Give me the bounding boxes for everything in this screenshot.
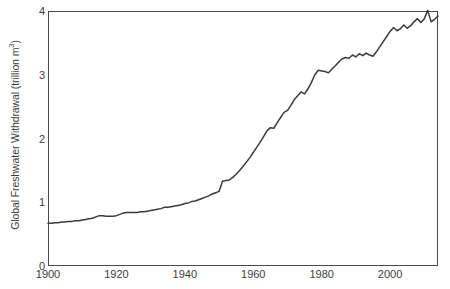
- x-axis-tick-1920: 1920: [104, 268, 128, 280]
- data-line-global-freshwater-withdrawal: [48, 10, 438, 223]
- x-axis-tick-labels: 190019201940196019802000: [0, 268, 450, 288]
- x-axis-tick-1960: 1960: [241, 268, 265, 280]
- y-axis-tick-1: 1: [39, 196, 45, 208]
- y-axis-label: Global Freshwater Withdrawal (trillion m…: [9, 40, 21, 230]
- y-axis-label-text: Global Freshwater Withdrawal (trillion m: [9, 48, 21, 230]
- y-axis-label-suffix: ): [9, 40, 21, 43]
- x-axis-tick-1940: 1940: [173, 268, 197, 280]
- x-axis-tick-1900: 1900: [36, 268, 60, 280]
- y-axis-label-superscript: 3: [8, 44, 17, 48]
- y-axis-tick-2: 2: [39, 133, 45, 145]
- plot-area: [48, 11, 438, 266]
- x-axis-tick-2000: 2000: [378, 268, 402, 280]
- chart-figure: Global Freshwater Withdrawal (trillion m…: [0, 0, 450, 289]
- y-axis-tick-labels: 01234: [28, 0, 45, 289]
- y-axis-tick-4: 4: [39, 5, 45, 17]
- y-axis-tick-3: 3: [39, 69, 45, 81]
- y-axis-label-container: Global Freshwater Withdrawal (trillion m…: [0, 0, 30, 270]
- x-axis-tick-1980: 1980: [309, 268, 333, 280]
